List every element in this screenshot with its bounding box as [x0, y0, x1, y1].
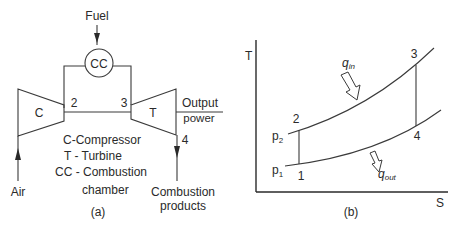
brayton-cycle-figure: Fuel CC C 2 3 T Output power — [0, 0, 461, 232]
legend-turbine: T - Turbine — [64, 149, 122, 163]
combustion-chamber: CC — [85, 49, 113, 77]
combustion-chamber-label: CC — [90, 57, 108, 71]
exhaust-label-line2: products — [160, 199, 206, 213]
heat-in-arrow-icon — [341, 72, 360, 100]
output-label-line1: Output — [182, 96, 219, 110]
state-3-label: 3 — [121, 96, 128, 110]
y-axis-label: T — [245, 49, 253, 63]
compressor-label: C — [35, 106, 44, 120]
exhaust-label-line1: Combustion — [151, 185, 215, 199]
legend-chamber: chamber — [82, 183, 129, 197]
caption-a: (a) — [91, 205, 106, 219]
gas-turbine-schematic: Fuel CC C 2 3 T Output power — [11, 9, 223, 219]
turbine: T — [131, 89, 176, 135]
legend-compressor: C-Compressor — [63, 133, 141, 147]
fuel-label: Fuel — [85, 9, 108, 23]
caption-b: (b) — [344, 205, 359, 219]
heat-out-label: qout — [378, 167, 397, 182]
compressor: C — [18, 89, 64, 136]
x-axis-label: S — [436, 196, 444, 210]
state-2-label: 2 — [71, 96, 78, 110]
exhaust-arrow-icon — [174, 135, 180, 181]
schematic-legend: C-Compressor T - Turbine CC - Combustion… — [55, 133, 147, 197]
legend-combustion: CC - Combustion — [55, 165, 147, 179]
p2-label: p2 — [272, 129, 284, 145]
state-4-label: 4 — [182, 133, 189, 147]
air-arrow-icon — [15, 136, 21, 181]
ts-diagram: T S p2 p1 2 1 3 4 qin qout (b) — [245, 40, 448, 219]
fuel-arrow-icon — [94, 25, 100, 45]
point-2-label: 2 — [293, 112, 300, 126]
p1-label: p1 — [272, 163, 284, 179]
point-1-label: 1 — [298, 169, 305, 183]
heat-in-label: qin — [342, 56, 355, 71]
point-4-label: 4 — [414, 129, 421, 143]
air-label: Air — [11, 185, 26, 199]
point-3-label: 3 — [411, 47, 418, 61]
output-label-line2: power — [183, 112, 214, 124]
turbine-label: T — [149, 106, 157, 120]
